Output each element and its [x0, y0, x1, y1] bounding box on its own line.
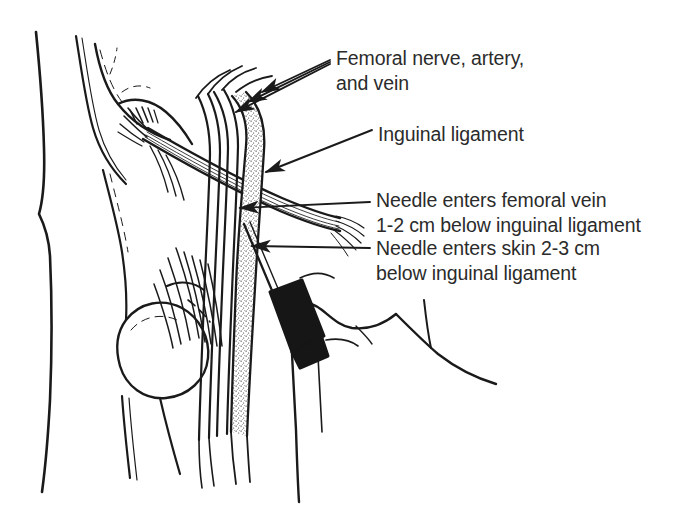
leader-femoral-bundle: [236, 60, 330, 112]
label-inguinal-ligament: Inguinal ligament: [378, 122, 524, 147]
femur-shaft-medial-2: [129, 398, 137, 480]
label-needle-skin-line2: below inguinal ligament: [376, 262, 576, 284]
label-needle-skin-line1: Needle enters skin 2-3 cm: [376, 237, 600, 259]
label-needle-skin: Needle enters skin 2-3 cmbelow inguinal …: [376, 236, 600, 286]
iliac-crest: [95, 44, 170, 140]
leader-inguinal-ligament: [266, 130, 372, 172]
label-needle-vein: Needle enters femoral vein1-2 cm below i…: [376, 188, 641, 238]
label-femoral-bundle-line2: and vein: [336, 72, 409, 94]
label-femoral-bundle-line1: Femoral nerve, artery,: [336, 47, 524, 69]
femoral-vein-cannulation-figure: Femoral nerve, artery,and vein Inguinal …: [0, 0, 700, 512]
label-femoral-bundle: Femoral nerve, artery,and vein: [336, 46, 524, 96]
needle-and-syringe: [244, 222, 358, 368]
flank-contour: [76, 36, 126, 184]
label-inguinal-ligament-line1: Inguinal ligament: [378, 123, 524, 145]
torso-outline: [36, 32, 52, 492]
superior-pubic-ramus: [167, 283, 204, 290]
femur-shaft-lateral: [160, 398, 180, 474]
label-needle-vein-line1: Needle enters femoral vein: [376, 189, 606, 211]
thigh-lateral-contour: [396, 314, 496, 384]
femur-shaft-medial: [122, 396, 130, 478]
label-needle-vein-line2: 1-2 cm below inguinal ligament: [376, 214, 641, 236]
